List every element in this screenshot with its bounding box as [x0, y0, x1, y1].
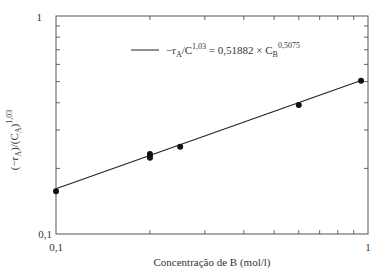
chart-svg: 1 0,1 0,1 1 Concentração de B (mol/l) (−…: [0, 0, 388, 278]
data-points: [53, 78, 364, 194]
legend-sup: 0,5075: [278, 41, 300, 50]
y-tick-1: 1: [37, 11, 43, 23]
legend-sup: 1,03: [192, 42, 206, 51]
y-label-part: )/(C: [8, 133, 21, 151]
legend-equation: −rA/C1,03 = 0,51882 × CB0,5075: [166, 41, 300, 59]
chart: 1 0,1 0,1 1 Concentração de B (mol/l) (−…: [0, 0, 388, 278]
y-axis-label: (−rA)/(CA)1,03: [5, 110, 23, 171]
legend-part: −r: [166, 44, 176, 56]
y-label-part: (−r: [8, 156, 21, 170]
legend-sub: B: [273, 50, 278, 59]
legend-part: = 0,51882 × C: [206, 44, 273, 56]
regression-line: [56, 81, 361, 189]
data-point: [177, 144, 183, 150]
x-tick-0.1: 0,1: [49, 241, 63, 253]
data-point: [147, 155, 153, 161]
fit-line: [56, 81, 361, 189]
y-tick-0.1: 0,1: [38, 228, 52, 240]
data-point: [53, 188, 59, 194]
data-point: [296, 102, 302, 108]
data-point: [358, 78, 364, 84]
y-label-sup: 1,03: [5, 110, 14, 124]
legend-part: /C: [182, 44, 192, 56]
x-tick-1: 1: [365, 241, 371, 253]
x-axis-label: Concentração de B (mol/l): [154, 256, 271, 269]
